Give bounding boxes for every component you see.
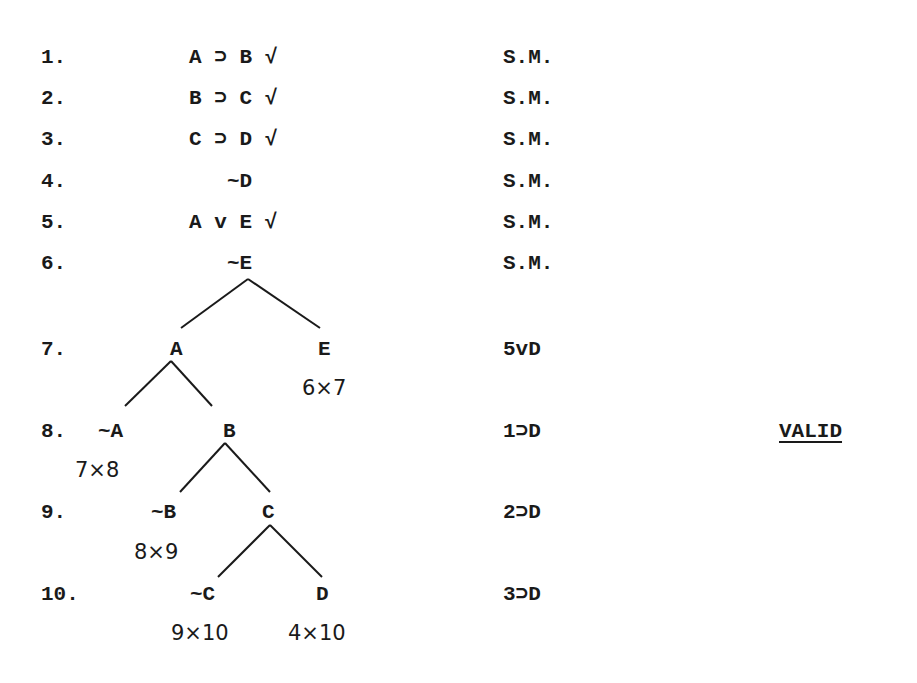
node-d: D bbox=[316, 584, 329, 605]
node-not-b: ~B bbox=[151, 502, 176, 523]
formula-premise-1: A ⊃ B √ bbox=[189, 47, 277, 68]
line-number-9: 9. bbox=[41, 502, 66, 523]
branch-line bbox=[181, 279, 248, 328]
justification-3: S.M. bbox=[503, 129, 553, 150]
formula-line-6: ~E bbox=[227, 253, 252, 274]
line-number-3: 3. bbox=[41, 129, 66, 150]
closure-mark-not-c: 9×10 bbox=[171, 623, 229, 644]
line-number-2: 2. bbox=[41, 88, 66, 109]
justification-1: S.M. bbox=[503, 47, 553, 68]
justification-5: S.M. bbox=[503, 212, 553, 233]
formula-negated-conclusion: ~D bbox=[227, 171, 252, 192]
branch-line bbox=[248, 279, 320, 328]
line-number-6: 6. bbox=[41, 253, 66, 274]
justification-9: 2⊃D bbox=[503, 502, 541, 523]
justification-6: S.M. bbox=[503, 253, 553, 274]
branch-line bbox=[125, 361, 171, 406]
node-not-c: ~C bbox=[190, 584, 215, 605]
closure-mark-not-b: 8×9 bbox=[134, 542, 178, 563]
node-not-a: ~A bbox=[98, 421, 123, 442]
formula-premise-3: C ⊃ D √ bbox=[189, 129, 277, 150]
justification-10: 3⊃D bbox=[503, 584, 541, 605]
truth-tree-branches bbox=[0, 0, 917, 683]
line-number-10: 10. bbox=[41, 584, 79, 605]
justification-4: S.M. bbox=[503, 171, 553, 192]
node-e: E bbox=[318, 339, 331, 360]
closure-mark-not-a: 7×8 bbox=[75, 460, 119, 481]
justification-7: 5vD bbox=[503, 339, 541, 360]
line-number-1: 1. bbox=[41, 47, 66, 68]
line-number-8: 8. bbox=[41, 421, 66, 442]
node-b: B bbox=[223, 421, 236, 442]
justification-8: 1⊃D bbox=[503, 421, 541, 442]
verdict-label: VALID bbox=[779, 421, 842, 442]
node-c: C bbox=[262, 502, 275, 523]
branch-line bbox=[218, 525, 270, 577]
justification-2: S.M. bbox=[503, 88, 553, 109]
node-a: A bbox=[170, 339, 183, 360]
line-number-4: 4. bbox=[41, 171, 66, 192]
line-number-7: 7. bbox=[41, 339, 66, 360]
branch-line bbox=[270, 525, 322, 577]
closure-mark-d: 4×10 bbox=[288, 623, 346, 644]
branch-line bbox=[171, 361, 212, 406]
line-number-5: 5. bbox=[41, 212, 66, 233]
formula-premise-5: A v E √ bbox=[189, 212, 277, 233]
branch-line bbox=[180, 443, 225, 492]
branch-line bbox=[225, 443, 270, 492]
closure-mark-e: 6×7 bbox=[302, 378, 346, 399]
formula-premise-2: B ⊃ C √ bbox=[189, 88, 277, 109]
